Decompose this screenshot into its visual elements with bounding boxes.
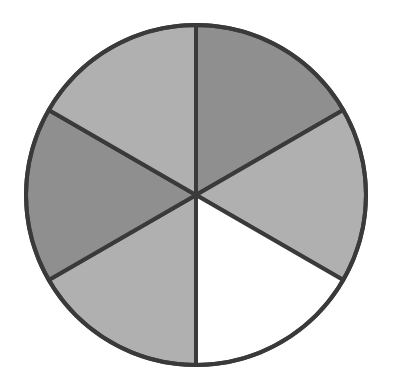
circle-divided-into-sixths <box>0 0 394 390</box>
fraction-circle-diagram <box>0 0 394 390</box>
